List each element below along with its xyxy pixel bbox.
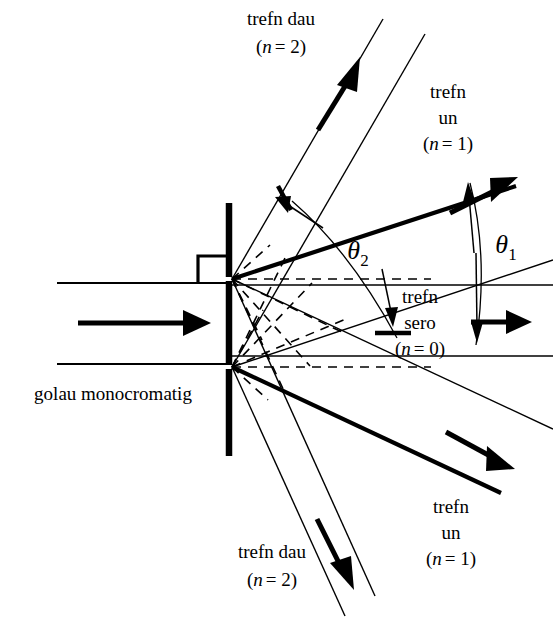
- label-order-one-bottom-name-2: un: [442, 522, 462, 543]
- incoming-beam-direction-arrowhead: [183, 310, 211, 336]
- zero-order-direction-arrowhead: [506, 310, 532, 334]
- diffraction-diagram-root: trefn dau (n= 2) trefn un (n= 1) trefn s…: [0, 0, 553, 638]
- label-order-two-top-order: (n= 2): [256, 36, 306, 58]
- label-theta-two: θ2: [347, 236, 368, 270]
- theta-one-lower-measure-arrowhead: [471, 322, 483, 343]
- eq-value-zero: = 0): [414, 338, 445, 360]
- n-italic-bot1: n: [432, 548, 442, 569]
- right-angle-marker-icon: [198, 256, 226, 283]
- theta-two-lower-measure-arrowhead: [385, 307, 398, 327]
- label-order-two-bottom-name: trefn dau: [238, 541, 307, 562]
- theta-one-subscript: 1: [508, 245, 517, 264]
- theta-two-lower-measure-shaft: [382, 269, 391, 312]
- n-italic-zero: n: [401, 338, 411, 359]
- second-order-lower-direction-arrow-shaft: [317, 519, 340, 565]
- label-order-two-bottom-order: (n= 2): [247, 569, 297, 591]
- eq-value-top2: = 2): [275, 36, 306, 58]
- first-order-lower-direction-arrowhead: [486, 446, 515, 471]
- second-order-upper-direction-arrow-shaft: [318, 83, 347, 130]
- dashed-wavefront-fan-lower-slit: [232, 254, 431, 400]
- second-order-upper-trailing-edge: [232, 34, 425, 367]
- dashed-ray-upper-2: [232, 279, 310, 366]
- label-order-zero-order: (n= 0): [395, 338, 445, 360]
- first-order-upper-direction-arrowhead: [490, 177, 518, 202]
- incoming-beam-group: [57, 283, 229, 364]
- label-order-zero-name-1: trefn: [402, 286, 438, 307]
- second-order-lower-direction-arrowhead: [330, 556, 354, 590]
- label-order-two-top-name: trefn dau: [247, 8, 316, 29]
- first-order-upper-beam-group: [232, 177, 553, 367]
- first-order-lower-direction-arrow-shaft: [446, 432, 492, 457]
- label-source-beam: golau monocromatig: [34, 383, 192, 404]
- n-italic-top2: n: [262, 36, 272, 57]
- eq-value-bot2: = 2): [266, 569, 297, 591]
- second-order-upper-leading-edge: [232, 19, 383, 279]
- label-order-zero-name-2: sero: [404, 312, 436, 333]
- second-order-upper-direction-arrowhead: [337, 57, 360, 92]
- eq-value-bot1: = 1): [445, 548, 476, 570]
- theta-one-lower-measure-shaft: [476, 253, 477, 328]
- label-order-one-bottom-order: (n= 1): [426, 548, 476, 570]
- theta-one-glyph: θ: [495, 230, 508, 259]
- diffraction-grating-figure: trefn dau (n= 2) trefn un (n= 1) trefn s…: [0, 0, 553, 638]
- theta-two-upper-measure-shaft: [288, 205, 323, 228]
- first-order-lower-thin-edge: [232, 279, 553, 429]
- n-italic-bot2: n: [253, 569, 263, 590]
- n-italic-top1: n: [429, 133, 439, 154]
- label-theta-one: θ1: [495, 230, 516, 264]
- label-order-one-top-name-1: trefn: [430, 81, 466, 102]
- label-order-one-top-name-2: un: [439, 107, 459, 128]
- theta-two-angle-group: [275, 186, 411, 338]
- label-order-one-top-order: (n= 1): [423, 133, 473, 155]
- theta-two-subscript: 2: [360, 251, 369, 270]
- eq-value-top1: = 1): [442, 133, 473, 155]
- theta-two-glyph: θ: [347, 236, 360, 265]
- theta-one-upper-measure-arrowhead: [463, 182, 475, 202]
- label-order-one-bottom-name-1: trefn: [433, 496, 469, 517]
- grating-barrier-group: [198, 203, 229, 456]
